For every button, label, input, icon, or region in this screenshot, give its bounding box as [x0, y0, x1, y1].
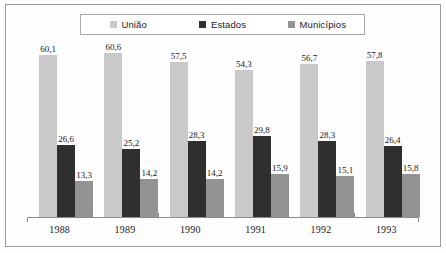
bar: 28,3: [318, 141, 336, 217]
bar-value-label: 57,8: [367, 50, 383, 60]
bar: 60,1: [39, 55, 57, 217]
bar: 28,3: [188, 141, 206, 217]
legend-label-estados: Estados: [211, 19, 246, 30]
bar: 14,2: [206, 179, 224, 217]
bar: 54,3: [235, 70, 253, 217]
bar: 13,3: [75, 181, 93, 217]
bar-value-label: 15,9: [272, 163, 288, 173]
bar: 25,2: [122, 149, 140, 217]
bar: 15,1: [336, 176, 354, 217]
bar-value-label: 54,3: [236, 59, 252, 69]
chart-legend: União Estados Municípios: [80, 14, 365, 35]
bar-group: 60,126,613,3: [27, 44, 92, 217]
bar: 14,2: [140, 179, 158, 217]
bar: 26,4: [384, 146, 402, 217]
bar-value-label: 60,1: [40, 44, 56, 54]
legend-label-uniao: União: [122, 19, 147, 30]
axis-tick: [92, 213, 93, 217]
axis-cap-right: [418, 217, 419, 222]
x-axis: [27, 217, 419, 223]
axis-line: [27, 217, 419, 218]
bar-value-label: 60,6: [105, 42, 121, 52]
bar-value-label: 15,8: [403, 163, 419, 173]
bar-value-label: 15,1: [337, 165, 353, 175]
bar-value-label: 26,4: [385, 135, 401, 145]
x-axis-label: 1991: [223, 224, 288, 240]
bar-value-label: 25,2: [123, 138, 139, 148]
bar: 57,5: [170, 62, 188, 217]
bar-value-label: 56,7: [301, 53, 317, 63]
legend-entry-estados: Estados: [175, 19, 269, 30]
bar: 57,8: [366, 61, 384, 217]
bar: 56,7: [300, 64, 318, 217]
axis-tick: [223, 213, 224, 217]
legend-swatch-estados: [199, 21, 206, 28]
bar: 15,9: [271, 174, 289, 217]
x-axis-label: 1993: [354, 224, 419, 240]
legend-swatch-municipios: [288, 21, 295, 28]
bar-value-label: 13,3: [76, 170, 92, 180]
bar-group: 54,329,815,9: [223, 44, 288, 217]
legend-swatch-uniao: [110, 21, 117, 28]
axis-cap-left: [27, 217, 28, 222]
axis-tick: [288, 213, 289, 217]
legend-entry-municipios: Municípios: [270, 19, 364, 30]
bar-group: 56,728,315,1: [288, 44, 353, 217]
plot-area: 60,126,613,360,625,214,257,528,314,254,3…: [27, 44, 419, 217]
bar-value-label: 26,6: [58, 134, 74, 144]
bar-group: 60,625,214,2: [92, 44, 157, 217]
bar: 26,6: [57, 145, 75, 217]
legend-label-municipios: Municípios: [300, 19, 346, 30]
bar-value-label: 29,8: [254, 125, 270, 135]
chart-figure: União Estados Municípios 60,126,613,360,…: [0, 0, 446, 253]
x-axis-labels: 198819891990199119921993: [27, 224, 419, 240]
bar-value-label: 28,3: [319, 130, 335, 140]
axis-tick: [354, 213, 355, 217]
bar: 29,8: [253, 136, 271, 217]
axis-tick: [158, 213, 159, 217]
bar-group: 57,826,415,8: [354, 44, 419, 217]
bar-value-label: 28,3: [189, 130, 205, 140]
bar-value-label: 57,5: [171, 51, 187, 61]
bar: 60,6: [104, 53, 122, 217]
bar-group: 57,528,314,2: [158, 44, 223, 217]
bar-value-label: 14,2: [207, 168, 223, 178]
x-axis-label: 1992: [288, 224, 353, 240]
bar-value-label: 14,2: [141, 168, 157, 178]
x-axis-label: 1988: [27, 224, 92, 240]
x-axis-label: 1990: [158, 224, 223, 240]
x-axis-label: 1989: [92, 224, 157, 240]
bar: 15,8: [402, 174, 420, 217]
legend-entry-uniao: União: [81, 19, 175, 30]
bar-groups: 60,126,613,360,625,214,257,528,314,254,3…: [27, 44, 419, 217]
